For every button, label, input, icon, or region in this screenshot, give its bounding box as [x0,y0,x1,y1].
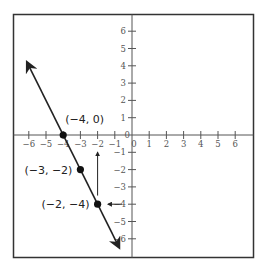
x-tick-label: 0 [131,139,136,149]
point-label: (−4, 0) [65,113,104,126]
y-tick-label: −1 [113,147,126,157]
y-tick-label: −2 [113,165,126,175]
y-tick-label: 3 [121,78,126,88]
y-tick-label: 5 [121,44,126,54]
y-tick-label: 1 [121,113,126,123]
x-tick-label: 1 [146,139,151,149]
x-tick-label: 4 [198,139,203,149]
data-point [77,166,84,173]
y-tick-label: 4 [121,61,126,71]
coordinate-graph: −6−5−4−3−2−11234560−6−5−4−3−2−11234560 (… [0,0,263,266]
x-tick-label: −5 [40,139,53,149]
y-tick-label: 0 [125,130,130,140]
point-label: (−2, −4) [42,198,90,211]
x-tick-label: 5 [215,139,220,149]
y-tick-label: −5 [113,217,126,227]
x-tick-label: 2 [164,139,169,149]
y-tick-label: 6 [121,26,126,36]
x-tick-label: 3 [181,139,186,149]
point-label: (−3, −2) [24,164,72,177]
x-tick-label: −6 [23,139,36,149]
x-tick-label: −2 [91,139,104,149]
data-point [60,131,67,138]
y-tick-label: −3 [113,182,126,192]
x-tick-label: 6 [232,139,237,149]
y-tick-label: 2 [121,95,126,105]
x-tick-label: −3 [74,139,87,149]
data-point [94,201,101,208]
